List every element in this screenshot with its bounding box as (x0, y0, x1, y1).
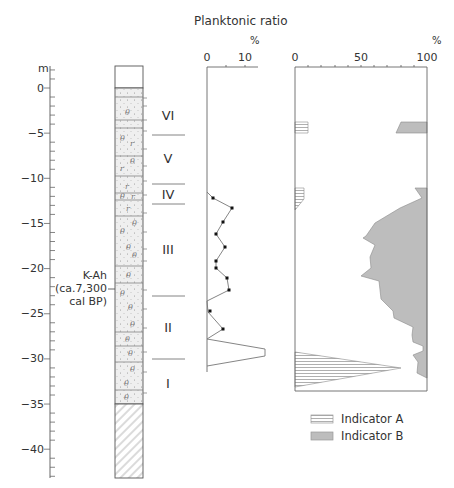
depth-unit-label: m (38, 62, 49, 75)
svg-text:θ: θ (132, 251, 137, 260)
svg-text:θ: θ (125, 108, 130, 117)
svg-text:θ: θ (130, 320, 135, 329)
depth-tick-m15: −15 (21, 217, 44, 230)
unit-labels: VI V IV III II I (152, 108, 185, 391)
svg-text:θ: θ (124, 393, 129, 402)
figure: m 0 −5 −10 −15 −20 −25 −30 −35 −40 (0, 0, 454, 488)
unit-III: III (162, 242, 174, 257)
svg-text:θ: θ (120, 289, 125, 298)
planktonic-pct-label: % (250, 35, 260, 46)
indicator-panel: % 0 50 100 (292, 35, 442, 391)
depth-tick-m35: −35 (21, 398, 44, 411)
indicator-a-swatch (311, 415, 333, 423)
depth-tick-m25: −25 (21, 307, 44, 320)
unit-IV: IV (162, 187, 175, 202)
svg-text:θ: θ (120, 227, 125, 236)
planktonic-tick-10: 10 (238, 51, 252, 64)
svg-text:θ: θ (126, 243, 131, 252)
k-ah-label: K-Ah (83, 269, 107, 282)
unit-V: V (164, 151, 173, 166)
svg-text:θ: θ (120, 192, 125, 201)
legend: Indicator A Indicator B (311, 412, 403, 443)
indicator-pct-label: % (432, 35, 442, 46)
k-ah-annotation: K-Ah (ca.7,300 cal BP) (55, 269, 107, 308)
svg-text:θ: θ (120, 134, 125, 143)
svg-text:θ: θ (128, 303, 133, 312)
depth-axis: m 0 −5 −10 −15 −20 −25 −30 −35 −40 (21, 62, 55, 478)
unit-I: I (166, 376, 170, 391)
depth-tick-m10: −10 (21, 172, 44, 185)
bedrock-hatch (115, 404, 143, 478)
unit-II: II (164, 320, 172, 335)
indicator-b-swatch (311, 432, 333, 440)
planktonic-tick-0: 0 (204, 51, 211, 64)
svg-text:θ: θ (128, 349, 133, 358)
indicator-tick-0: 0 (292, 51, 299, 64)
depth-tick-0: 0 (37, 82, 44, 95)
legend-item-indicator-a: Indicator A (311, 412, 403, 426)
svg-text:θ: θ (130, 157, 135, 166)
indicator-tick-100: 100 (417, 51, 438, 64)
legend-item-indicator-b: Indicator B (311, 429, 403, 443)
k-ah-date: (ca.7,300 (55, 282, 107, 295)
svg-text:θ: θ (125, 335, 130, 344)
unit-VI: VI (162, 108, 175, 123)
indicator-tick-50: 50 (354, 51, 368, 64)
legend-label-a: Indicator A (341, 412, 403, 426)
legend-label-b: Indicator B (341, 429, 403, 443)
depth-tick-m20: −20 (21, 262, 44, 275)
svg-text:θ: θ (124, 379, 129, 388)
depth-tick-m5: −5 (28, 127, 44, 140)
svg-text:θ: θ (132, 219, 137, 228)
indicator-b-series (361, 122, 427, 378)
k-ah-unit: cal BP) (69, 295, 107, 308)
depth-tick-m30: −30 (21, 352, 44, 365)
stratigraphic-column: θ θr θr r θr r θθ θθ θ θθ θθ θθ θθ (55, 66, 147, 478)
svg-text:θ: θ (126, 271, 131, 280)
planktonic-ratio-panel: Planktonic ratio % 0 10 (194, 14, 288, 372)
planktonic-title: Planktonic ratio (194, 14, 288, 28)
depth-tick-m40: −40 (21, 443, 44, 456)
svg-text:θ: θ (130, 365, 135, 374)
